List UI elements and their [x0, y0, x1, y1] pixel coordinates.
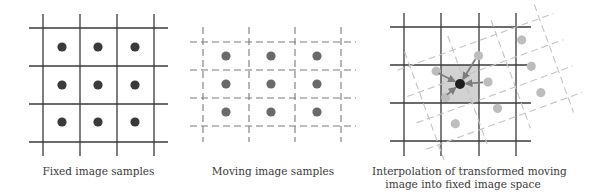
sample-dot — [57, 42, 66, 51]
sample-dot — [312, 107, 321, 116]
sample-dot — [535, 87, 547, 99]
sample-dot — [130, 80, 139, 89]
caption-line: Interpolation of transformed moving — [372, 165, 554, 178]
sample-dot — [93, 80, 102, 89]
caption-moving-image-samples: Moving image samples — [190, 165, 356, 178]
interpolation-arrow — [466, 82, 483, 83]
fixed-image-panel — [29, 14, 168, 156]
sample-dot — [312, 79, 321, 88]
caption-line: Moving image samples — [190, 165, 356, 178]
grid-line-horizontal — [398, 13, 554, 70]
interpolated-sample-dot — [455, 79, 465, 89]
sample-dot — [130, 117, 139, 126]
sample-dot — [221, 51, 230, 60]
caption-line: Fixed image samples — [29, 165, 168, 178]
transformed-lattice — [392, 0, 587, 164]
transformed-moving-grid — [392, 0, 587, 164]
sample-dot — [266, 107, 275, 116]
sample-dot — [266, 51, 275, 60]
sample-dot — [516, 34, 528, 46]
sample-dot — [93, 117, 102, 126]
sample-dot — [221, 79, 230, 88]
sample-dot — [492, 102, 504, 114]
sample-dot — [57, 117, 66, 126]
sample-dot — [221, 107, 230, 116]
sample-dot — [312, 51, 321, 60]
sample-dot — [57, 80, 66, 89]
caption-interpolation: Interpolation of transformed moving imag… — [372, 165, 554, 191]
sample-dot — [482, 76, 494, 88]
sample-dot — [93, 42, 102, 51]
sample-dot — [130, 42, 139, 51]
grid-line-horizontal — [407, 40, 563, 97]
sample-dot — [525, 60, 537, 72]
caption-fixed-image-samples: Fixed image samples — [29, 165, 168, 178]
interpolated-sample-dot — [455, 79, 465, 89]
sample-dot — [266, 79, 275, 88]
interpolation-panel — [390, 0, 588, 164]
sample-dot — [430, 65, 442, 77]
caption-line: image into fixed image space — [372, 178, 554, 191]
sample-dot — [449, 118, 461, 130]
moving-image-panel — [190, 27, 356, 142]
